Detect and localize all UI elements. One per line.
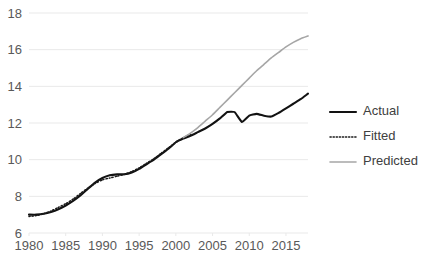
x-tick-label: 2000	[161, 238, 190, 253]
x-tick-label: 1990	[88, 238, 117, 253]
gridlines	[29, 13, 308, 233]
x-tick-label: 1995	[125, 238, 154, 253]
y-tick-label: 18	[8, 6, 22, 21]
x-tick-label: 2015	[272, 238, 301, 253]
x-tick-label: 2010	[235, 238, 264, 253]
legend-label-actual: Actual	[363, 103, 399, 118]
y-tick-label: 12	[8, 116, 22, 131]
legend-label-fitted: Fitted	[363, 128, 396, 143]
x-tick-label: 2005	[198, 238, 227, 253]
y-tick-label: 16	[8, 42, 22, 57]
y-tick-label: 14	[8, 79, 22, 94]
x-axis-tick-labels: 19801985199019952000200520102015	[15, 233, 301, 253]
y-tick-label: 10	[8, 152, 22, 167]
y-axis-tick-labels: 681012141618	[8, 6, 22, 241]
y-tick-label: 8	[15, 189, 22, 204]
series-layer	[29, 36, 308, 217]
x-tick-label: 1985	[51, 238, 80, 253]
chart-canvas: 681012141618 198019851990199520002005201…	[0, 0, 423, 258]
chart-legend: ActualFittedPredicted	[330, 103, 418, 168]
line-chart: 681012141618 198019851990199520002005201…	[0, 0, 423, 258]
x-tick-label: 1980	[15, 238, 44, 253]
legend-label-predicted: Predicted	[363, 153, 418, 168]
